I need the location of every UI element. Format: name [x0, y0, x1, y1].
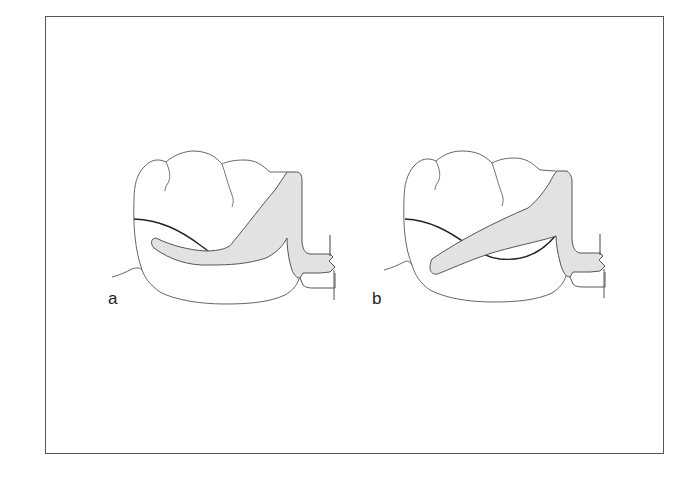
panel-label-a: a [108, 289, 117, 309]
panel-a-tooth-illustration [112, 151, 335, 304]
panel-b-tooth-illustration [384, 151, 605, 302]
panel-label-b: b [372, 289, 381, 309]
dental-clasp-diagram [0, 0, 700, 485]
